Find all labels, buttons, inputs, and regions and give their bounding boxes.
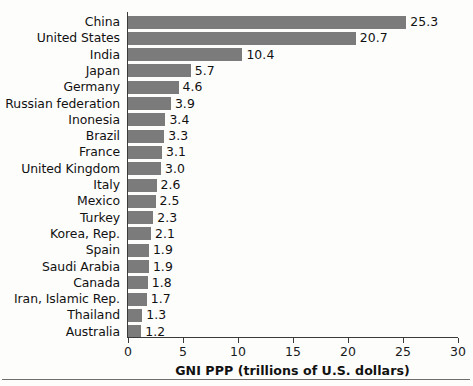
bar: [128, 309, 142, 322]
bar-value-label: 3.3: [168, 129, 188, 143]
bar-value-label: 2.6: [161, 178, 181, 192]
category-label: United Kingdom: [0, 162, 120, 176]
x-tick-label: 10: [223, 344, 253, 359]
category-label: Germany: [0, 80, 120, 94]
bar-row: Mexico2.5: [0, 194, 473, 210]
bar: [128, 162, 161, 175]
category-label: Turkey: [0, 211, 120, 225]
footer-divider: [2, 379, 470, 380]
bar-rows: China25.3United States20.7India10.4Japan…: [0, 0, 473, 338]
bar: [128, 244, 149, 257]
bar-row: France3.1: [0, 145, 473, 161]
bar-value-label: 1.9: [153, 243, 173, 257]
x-tick: [348, 338, 349, 343]
bar-value-label: 2.1: [155, 227, 175, 241]
x-tick-label: 15: [278, 344, 308, 359]
bar-row: United States20.7: [0, 31, 473, 47]
bar-row: United Kingdom3.0: [0, 162, 473, 178]
bar-value-label: 3.0: [165, 162, 185, 176]
bar-value-label: 5.7: [195, 64, 215, 78]
bar-value-label: 2.3: [157, 211, 177, 225]
x-tick: [128, 338, 129, 343]
x-tick-label: 5: [168, 344, 198, 359]
bar-row: Turkey2.3: [0, 211, 473, 227]
bar-value-label: 1.7: [151, 292, 171, 306]
bar: [128, 16, 406, 29]
category-label: Brazil: [0, 129, 120, 143]
bar-row: Canada1.8: [0, 276, 473, 292]
bar-row: Iran, Islamic Rep.1.7: [0, 292, 473, 308]
bar-value-label: 20.7: [360, 31, 388, 45]
y-axis-line: [127, 12, 128, 338]
bar: [128, 211, 153, 224]
category-label: Iran, Islamic Rep.: [0, 292, 120, 306]
bar: [128, 32, 356, 45]
bar: [128, 113, 165, 126]
bar: [128, 179, 157, 192]
category-label: Saudi Arabia: [0, 260, 120, 274]
bar: [128, 146, 162, 159]
category-label: Canada: [0, 276, 120, 290]
category-label: Thailand: [0, 308, 120, 322]
bar: [128, 130, 164, 143]
category-label: Australia: [0, 325, 120, 339]
category-label: France: [0, 145, 120, 159]
category-label: Korea, Rep.: [0, 227, 120, 241]
bar-value-label: 1.9: [153, 260, 173, 274]
bar-row: Spain1.9: [0, 243, 473, 259]
category-label: Russian federation: [0, 97, 120, 111]
category-label: Inonesia: [0, 113, 120, 127]
x-tick-label: 25: [388, 344, 418, 359]
x-tick-label: 20: [333, 344, 363, 359]
category-label: Spain: [0, 243, 120, 257]
bar-value-label: 10.4: [246, 48, 274, 62]
bar-row: Italy2.6: [0, 178, 473, 194]
x-tick: [238, 338, 239, 343]
category-label: India: [0, 48, 120, 62]
bar-value-label: 4.6: [183, 80, 203, 94]
bar-value-label: 3.4: [169, 113, 189, 127]
category-label: Italy: [0, 178, 120, 192]
x-tick-label: 0: [113, 344, 143, 359]
bar-row: Inonesia3.4: [0, 113, 473, 129]
bar-row: Brazil3.3: [0, 129, 473, 145]
bar-row: Korea, Rep.2.1: [0, 227, 473, 243]
category-label: Japan: [0, 64, 120, 78]
bar-value-label: 1.3: [146, 308, 166, 322]
bar-value-label: 3.9: [175, 97, 195, 111]
bar: [128, 276, 148, 289]
bar-value-label: 2.5: [160, 194, 180, 208]
bar-value-label: 25.3: [410, 15, 438, 29]
bar: [128, 64, 191, 77]
bar: [128, 97, 171, 110]
x-tick-label: 30: [443, 344, 473, 359]
bar-row: Russian federation3.9: [0, 97, 473, 113]
bar-value-label: 1.8: [152, 276, 172, 290]
bar-chart: China25.3United States20.7India10.4Japan…: [0, 0, 473, 386]
x-axis-title: GNI PPP (trillions of U.S. dollars): [127, 363, 458, 378]
bar: [128, 293, 147, 306]
category-label: Mexico: [0, 194, 120, 208]
bar: [128, 260, 149, 273]
bar-value-label: 3.1: [166, 145, 186, 159]
x-tick: [293, 338, 294, 343]
bar-row: Germany4.6: [0, 80, 473, 96]
bar-row: India10.4: [0, 48, 473, 64]
x-tick: [403, 338, 404, 343]
bar-row: Saudi Arabia1.9: [0, 260, 473, 276]
bar-row: Japan5.7: [0, 64, 473, 80]
bar: [128, 195, 156, 208]
bar-row: Thailand1.3: [0, 308, 473, 324]
bar: [128, 227, 151, 240]
x-tick: [458, 338, 459, 343]
x-tick: [183, 338, 184, 343]
bar: [128, 48, 242, 61]
category-label: China: [0, 15, 120, 29]
bar-row: China25.3: [0, 15, 473, 31]
bar: [128, 81, 179, 94]
category-label: United States: [0, 31, 120, 45]
